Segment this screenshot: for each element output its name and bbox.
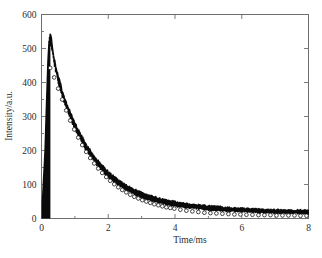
fit-data-point	[128, 193, 132, 197]
fit-data-point	[148, 201, 152, 205]
y-tick-label: 600	[22, 10, 37, 20]
fit-data-point	[263, 213, 267, 217]
fit-data-point	[209, 211, 213, 215]
fit-data-point	[178, 208, 182, 212]
y-tick-label: 200	[22, 146, 37, 156]
x-tick-label: 4	[173, 223, 178, 233]
fit-data-point	[257, 213, 261, 217]
fit-data-point	[245, 213, 249, 217]
fit-data-point	[293, 214, 297, 218]
fit-data-point	[116, 185, 120, 189]
fit-data-point	[96, 167, 100, 171]
fit-data-point	[164, 205, 168, 209]
fit-data-point	[60, 98, 64, 102]
fit-data-point	[56, 87, 60, 91]
fit-data-point	[172, 207, 176, 211]
y-axis-title: Intensity/a.u.	[4, 91, 14, 141]
fit-data-point	[239, 213, 243, 217]
y-tick-label: 500	[22, 44, 37, 54]
fit-data-point	[156, 203, 160, 207]
fit-data-point	[132, 195, 136, 199]
x-axis-title: Time/ms	[173, 235, 207, 245]
fit-data-point	[72, 128, 76, 132]
fit-data-point	[112, 182, 116, 186]
fit-data-point	[140, 198, 144, 202]
fit-data-point	[64, 109, 68, 113]
fit-data-point	[233, 213, 237, 217]
fit-data-point	[221, 212, 225, 216]
fit-data-point	[108, 179, 112, 183]
fit-data-point	[120, 188, 124, 192]
fit-data-point	[48, 66, 52, 70]
fit-data-point	[52, 76, 56, 80]
fit-data-point	[80, 143, 84, 147]
x-tick-label: 0	[39, 223, 44, 233]
fit-data-point	[275, 214, 279, 218]
fit-data-point	[160, 204, 164, 208]
figure-container: 010020030040050060002468 Time/ms Intensi…	[0, 0, 322, 258]
fit-data-point	[152, 202, 156, 206]
fit-data-point	[281, 214, 285, 218]
fit-data-point	[197, 210, 201, 214]
fit-data-point	[68, 119, 72, 123]
fit-data-point	[299, 214, 303, 218]
x-tick-label: 8	[306, 223, 311, 233]
fit-data-point	[92, 162, 96, 166]
fit-data-point	[287, 214, 291, 218]
fit-data-point	[185, 209, 189, 213]
decay-curve-chart: 010020030040050060002468 Time/ms Intensi…	[0, 0, 322, 258]
fit-data-point	[136, 197, 140, 201]
fit-data-point	[305, 214, 309, 218]
fit-data-point	[251, 213, 255, 217]
fit-data-point	[84, 150, 88, 154]
fit-data-point	[168, 206, 172, 210]
fit-data-point	[124, 190, 128, 194]
fit-data-point	[203, 211, 207, 215]
x-tick-label: 6	[239, 223, 244, 233]
y-tick-label: 0	[32, 214, 37, 224]
fit-data-point	[144, 200, 148, 204]
y-tick-label: 400	[22, 78, 37, 88]
fit-data-point	[104, 175, 108, 179]
fit-data-point	[76, 136, 80, 140]
fit-data-point	[100, 171, 104, 175]
fit-data-point	[215, 212, 219, 216]
x-tick-label: 2	[106, 223, 111, 233]
y-tick-label: 300	[22, 112, 37, 122]
fit-data-point	[191, 210, 195, 214]
fit-data-point	[227, 212, 231, 216]
fit-data-point	[269, 213, 273, 217]
fit-data-point	[88, 156, 92, 160]
y-tick-label: 100	[22, 180, 37, 190]
